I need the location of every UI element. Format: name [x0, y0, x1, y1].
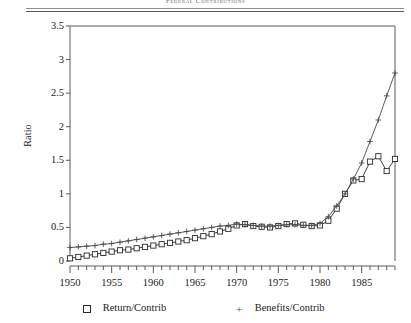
chart-legend: Return/Contrib + Benefits/Contrib: [0, 299, 411, 317]
plus-marker-icon: +: [232, 302, 246, 313]
legend-item-benefits-contrib[interactable]: + Benefits/Contrib: [232, 301, 325, 313]
series-return-contrib: [67, 154, 397, 261]
chart-plot-area: [0, 0, 411, 323]
square-marker-icon: [80, 302, 94, 313]
figure-container: Federal Contributions Ratio 00.511.522.5…: [0, 0, 411, 323]
series-benefits-contrib: [67, 70, 398, 250]
legend-label-return-contrib: Return/Contrib: [97, 302, 167, 313]
legend-item-return-contrib[interactable]: Return/Contrib: [80, 301, 166, 313]
legend-label-benefits-contrib: Benefits/Contrib: [249, 302, 325, 313]
